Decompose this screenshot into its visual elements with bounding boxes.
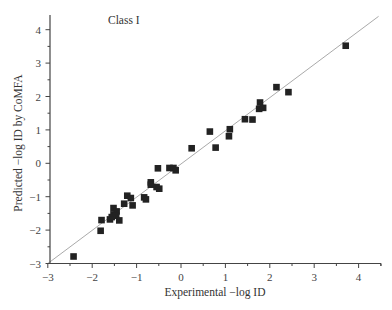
x-tick-label: −3 — [42, 271, 54, 283]
data-point — [249, 116, 256, 123]
data-point — [242, 116, 249, 123]
scatter-chart: −3−2−101234 −3−2−101234 Class I Experime… — [0, 0, 392, 310]
data-point — [226, 133, 233, 140]
x-ticks: −3−2−101234 — [42, 264, 381, 284]
y-tick-label: 0 — [36, 157, 42, 169]
data-point — [188, 145, 195, 152]
y-tick-label: −2 — [29, 224, 41, 236]
data-point — [212, 144, 219, 151]
regression-line — [48, 16, 379, 263]
x-tick-label: −2 — [86, 271, 98, 283]
y-tick-label: −1 — [29, 191, 41, 203]
axes — [49, 15, 381, 264]
y-tick-label: 2 — [36, 91, 42, 103]
data-point — [342, 42, 349, 49]
data-point — [156, 185, 163, 192]
data-point — [128, 195, 135, 202]
data-point — [143, 196, 150, 203]
data-point — [273, 84, 280, 91]
x-tick-label: 0 — [178, 271, 184, 283]
x-tick-label: 3 — [311, 271, 317, 283]
data-point — [148, 181, 155, 188]
y-tick-label: −3 — [29, 258, 41, 270]
x-tick-label: 2 — [267, 271, 273, 283]
data-point — [227, 126, 234, 133]
data-point — [121, 200, 128, 207]
x-tick-label: −1 — [131, 271, 143, 283]
data-point — [129, 202, 136, 209]
data-point — [207, 128, 214, 135]
fit-line — [48, 16, 379, 263]
data-point — [107, 216, 114, 223]
y-axis-label: Predicted −log ID by CoMFA — [12, 74, 25, 212]
x-tick-label: 1 — [223, 271, 229, 283]
y-tick-label: 3 — [36, 57, 42, 69]
data-point — [70, 253, 77, 260]
data-points — [70, 42, 349, 259]
data-point — [98, 217, 105, 224]
data-point — [172, 167, 179, 174]
data-point — [116, 217, 123, 224]
data-point — [97, 227, 104, 234]
data-point — [260, 105, 267, 112]
y-ticks: −3−2−101234 — [29, 24, 50, 270]
chart-title: Class I — [108, 14, 140, 26]
x-tick-label: 4 — [356, 271, 362, 283]
y-tick-label: 4 — [36, 24, 42, 36]
data-point — [285, 89, 292, 96]
x-axis-label: Experimental −log ID — [164, 286, 265, 299]
y-tick-label: 1 — [36, 124, 42, 136]
data-point — [155, 165, 162, 172]
